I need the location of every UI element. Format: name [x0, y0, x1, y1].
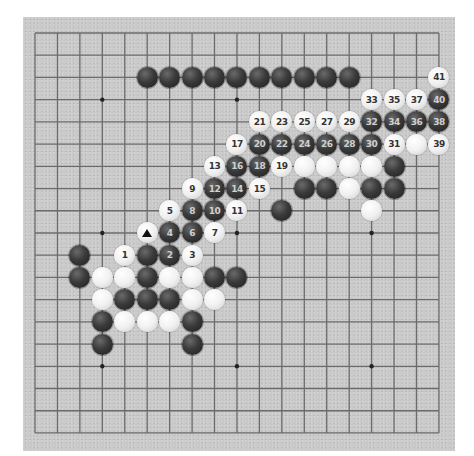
black-stone: 30 [361, 134, 382, 155]
move-number: 18 [254, 161, 266, 171]
black-stone [204, 67, 225, 88]
black-stone [249, 67, 270, 88]
star-point [100, 97, 104, 101]
move-number: 16 [231, 161, 243, 171]
white-stone: 13 [204, 156, 225, 177]
black-stone: 20 [249, 134, 270, 155]
white-stone [361, 156, 382, 177]
black-stone: 26 [316, 134, 337, 155]
move-number: 31 [388, 139, 400, 149]
black-stone: 2 [159, 245, 180, 266]
triangle-marker-icon [142, 229, 152, 237]
move-number: 34 [388, 117, 400, 127]
black-stone: 12 [204, 178, 225, 199]
move-number: 9 [189, 184, 195, 194]
black-stone: 18 [249, 156, 270, 177]
move-number: 28 [343, 139, 355, 149]
move-number: 19 [276, 161, 288, 171]
star-point [100, 231, 104, 235]
move-number: 21 [254, 117, 266, 127]
black-stone [361, 178, 382, 199]
white-stone: 19 [271, 156, 292, 177]
go-board: 4133353740212325272932343638172022242628… [23, 17, 455, 451]
black-stone [294, 178, 315, 199]
black-stone [182, 334, 203, 355]
black-stone: 8 [182, 200, 203, 221]
move-number: 5 [167, 206, 173, 216]
move-number: 1 [122, 250, 128, 260]
white-stone [294, 156, 315, 177]
move-number: 25 [299, 117, 311, 127]
move-number: 24 [299, 139, 311, 149]
star-point [369, 231, 373, 235]
black-stone [204, 267, 225, 288]
white-stone [406, 134, 427, 155]
move-number: 39 [433, 139, 445, 149]
star-point [235, 97, 239, 101]
move-number: 41 [433, 72, 445, 82]
white-stone [339, 156, 360, 177]
white-stone [339, 178, 360, 199]
white-stone [316, 156, 337, 177]
white-stone [92, 267, 113, 288]
star-point [235, 364, 239, 368]
black-stone [137, 245, 158, 266]
white-stone [182, 267, 203, 288]
black-stone [182, 67, 203, 88]
move-number: 38 [433, 117, 445, 127]
move-number: 32 [366, 117, 378, 127]
black-stone: 28 [339, 134, 360, 155]
white-stone: 29 [339, 111, 360, 132]
move-number: 35 [388, 95, 400, 105]
move-number: 3 [189, 250, 195, 260]
white-stone [182, 289, 203, 310]
black-stone [339, 67, 360, 88]
black-stone [159, 67, 180, 88]
star-point [100, 364, 104, 368]
white-stone: 9 [182, 178, 203, 199]
white-stone: 39 [428, 134, 449, 155]
move-number: 13 [209, 161, 221, 171]
move-number: 10 [209, 206, 221, 216]
white-stone [92, 289, 113, 310]
white-stone [137, 311, 158, 332]
star-point [235, 231, 239, 235]
white-stone: 3 [182, 245, 203, 266]
black-stone [384, 156, 405, 177]
move-number: 23 [276, 117, 288, 127]
move-number: 40 [433, 95, 445, 105]
move-number: 29 [343, 117, 355, 127]
move-number: 22 [276, 139, 288, 149]
black-stone [69, 245, 90, 266]
black-stone [92, 334, 113, 355]
move-number: 14 [231, 184, 243, 194]
white-stone: 35 [384, 89, 405, 110]
move-number: 8 [189, 206, 195, 216]
move-number: 6 [189, 228, 195, 238]
white-stone: 25 [294, 111, 315, 132]
white-stone: 37 [406, 89, 427, 110]
white-stone [159, 267, 180, 288]
move-number: 17 [231, 139, 243, 149]
move-number: 37 [411, 95, 423, 105]
black-stone: 22 [271, 134, 292, 155]
move-number: 7 [212, 228, 218, 238]
star-point [369, 364, 373, 368]
move-number: 4 [167, 228, 173, 238]
black-stone [316, 67, 337, 88]
move-number: 33 [366, 95, 378, 105]
white-stone: 31 [384, 134, 405, 155]
black-stone: 6 [182, 222, 203, 243]
move-number: 15 [254, 184, 266, 194]
black-stone: 34 [384, 111, 405, 132]
black-stone [294, 67, 315, 88]
black-stone: 24 [294, 134, 315, 155]
black-stone [137, 67, 158, 88]
move-number: 11 [231, 206, 243, 216]
black-stone [384, 178, 405, 199]
move-number: 26 [321, 139, 333, 149]
move-number: 20 [254, 139, 266, 149]
move-number: 12 [209, 184, 221, 194]
white-stone: 1 [114, 245, 135, 266]
white-stone [114, 267, 135, 288]
